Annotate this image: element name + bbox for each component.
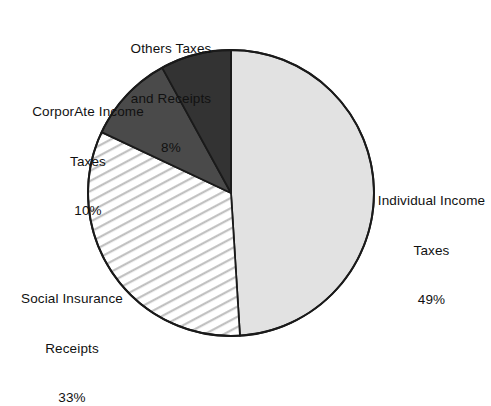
slice-label-corporate-percent: 10% <box>12 203 164 220</box>
slice-label-corporate-line1: CorporAte Income <box>12 104 164 121</box>
pie-slice-individual[interactable] <box>231 50 374 336</box>
slice-label-others-line1: Others Taxes <box>96 41 246 58</box>
slice-label-individual-line1: Individual Income <box>372 193 491 210</box>
slice-label-individual-line2: Taxes <box>372 243 491 260</box>
slice-label-individual-percent: 49% <box>372 292 491 309</box>
slice-label-social-percent: 33% <box>2 390 142 406</box>
slice-label-social-line1: Social Insurance <box>2 291 142 308</box>
slice-label-individual: Individual Income Taxes 49% <box>372 160 491 342</box>
slice-label-social-line2: Receipts <box>2 341 142 358</box>
slice-label-corporate-line2: Taxes <box>12 154 164 171</box>
slice-label-corporate: CorporAte Income Taxes 10% <box>12 71 164 253</box>
slice-label-social: Social Insurance Receipts 33% <box>2 258 142 406</box>
